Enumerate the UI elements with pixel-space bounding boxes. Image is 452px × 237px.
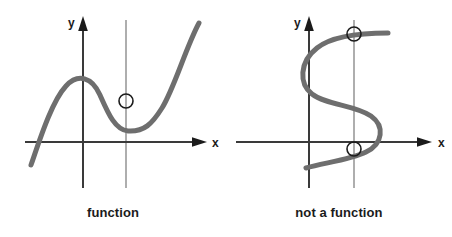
figure-background [0,0,452,237]
y-axis-label: y [294,16,301,30]
x-axis-label: x [212,136,219,150]
left-panel-caption: function [0,205,226,220]
x-axis-label: x [438,136,445,150]
y-axis-label: y [68,16,75,30]
vertical-line-test-figure: y x y x [0,0,452,237]
right-panel-caption: not a function [226,205,452,220]
